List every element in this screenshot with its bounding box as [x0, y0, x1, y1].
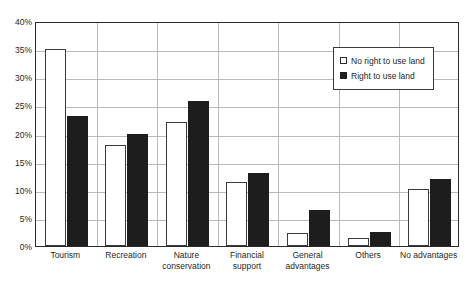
y-axis-tick-label: 10%	[2, 186, 32, 195]
bar-group	[278, 23, 339, 246]
x-axis: TourismRecreationNature conservationFina…	[35, 250, 459, 290]
bar-right-to-use-land	[309, 210, 330, 246]
x-axis-tick-label: Others	[338, 250, 399, 261]
x-axis-tick-label: Recreation	[96, 250, 157, 261]
bar-no-right-to-use-land	[287, 233, 308, 247]
legend-item-no-right: No right to use land	[340, 53, 425, 68]
hollow-square-icon	[340, 57, 347, 64]
bar-group	[157, 23, 218, 246]
y-axis-tick-label: 40%	[2, 18, 32, 27]
bar-no-right-to-use-land	[348, 238, 369, 246]
bar-no-right-to-use-land	[166, 122, 187, 246]
legend-item-right: Right to use land	[340, 68, 425, 83]
bar-no-right-to-use-land	[105, 145, 126, 246]
filled-square-icon	[340, 72, 347, 79]
legend-item-label: Right to use land	[351, 71, 415, 81]
y-axis-tick-label: 0%	[2, 243, 32, 252]
bar-group	[218, 23, 279, 246]
legend: No right to use land Right to use land	[333, 47, 434, 90]
bar-right-to-use-land	[67, 116, 88, 247]
bar-group	[36, 23, 97, 246]
bar-right-to-use-land	[127, 134, 148, 246]
y-axis-tick-label: 20%	[2, 130, 32, 139]
bar-right-to-use-land	[370, 232, 391, 246]
y-axis-tick-label: 5%	[2, 214, 32, 223]
x-axis-tick-label: Nature conservation	[156, 250, 217, 272]
bar-no-right-to-use-land	[226, 182, 247, 246]
y-axis: 0%5%10%15%20%25%30%35%40%	[0, 0, 32, 290]
x-axis-tick-label: Tourism	[35, 250, 96, 261]
y-axis-tick-label: 35%	[2, 46, 32, 55]
y-axis-tick-label: 25%	[2, 102, 32, 111]
x-axis-tick-label: Financial support	[217, 250, 278, 272]
bar-right-to-use-land	[430, 179, 451, 247]
bar-no-right-to-use-land	[45, 49, 66, 246]
y-axis-tick-label: 30%	[2, 74, 32, 83]
plot-area: No right to use land Right to use land	[35, 22, 459, 247]
bar-chart: 0%5%10%15%20%25%30%35%40% No right to us…	[0, 0, 473, 290]
legend-item-label: No right to use land	[351, 56, 425, 66]
bar-group	[97, 23, 158, 246]
bar-no-right-to-use-land	[408, 189, 429, 246]
x-axis-tick-label: No advantages	[398, 250, 459, 261]
bar-right-to-use-land	[188, 101, 209, 246]
x-axis-tick-label: General advantages	[277, 250, 338, 272]
y-axis-tick-label: 15%	[2, 158, 32, 167]
bar-right-to-use-land	[248, 173, 269, 246]
